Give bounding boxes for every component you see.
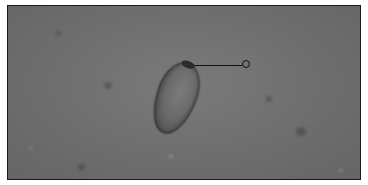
- debris-spot: [56, 31, 61, 36]
- debris-spot: [266, 96, 272, 102]
- annotation-leader-line: [194, 65, 242, 66]
- debris-spot: [296, 127, 306, 136]
- debris-particle: [338, 168, 343, 173]
- debris-spot: [78, 164, 85, 170]
- ovoid-specimen: [145, 56, 208, 139]
- debris-particle: [28, 146, 33, 150]
- debris-spot: [104, 82, 112, 89]
- micrograph-frame: [7, 5, 361, 180]
- annotation-circle-marker: [242, 60, 250, 68]
- debris-particle: [168, 154, 174, 159]
